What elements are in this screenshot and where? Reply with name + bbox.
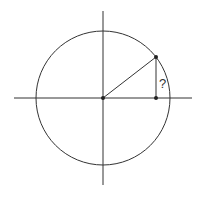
origin-point (101, 96, 105, 100)
circle-point (154, 55, 158, 59)
foot-point (154, 96, 158, 100)
unknown-label: ? (159, 76, 166, 91)
unit-circle-diagram: ? (0, 0, 200, 199)
radius-line (103, 57, 156, 98)
